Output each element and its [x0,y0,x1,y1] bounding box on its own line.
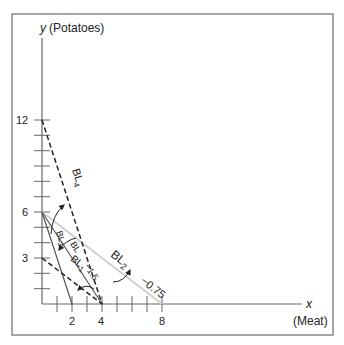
y-tick-12: 12 [16,114,28,126]
x-tick-4: 4 [98,315,104,327]
y-tick-3: 3 [22,252,28,264]
y-axis-var: y [39,21,47,35]
x-axis-name: (Meat) [293,314,328,328]
x-tick-8: 8 [159,315,165,327]
label-bl3: BL3 [53,230,68,248]
y-axis-label: y(Potatoes) [39,21,104,35]
y-axis-name: (Potatoes) [49,21,104,35]
label-bl2: BL2 [107,247,132,272]
x-tick-2: 2 [69,315,75,327]
y-tick-6: 6 [22,206,28,218]
budget-line-diagram: 12 6 3 2 4 8 y(Potatoes) x (Meat) BL4 BL… [0,0,344,345]
x-axis-var: x [305,297,313,311]
budget-line-bl2 [42,212,162,304]
label-bl4: BL4 [67,167,87,189]
